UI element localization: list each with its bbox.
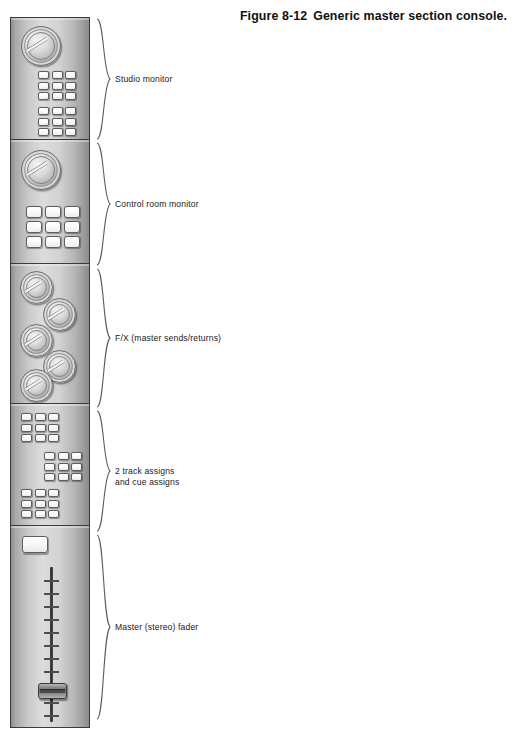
assign-grid-top-left[interactable] [21, 413, 59, 442]
studio-monitor-grid-lower[interactable] [38, 107, 76, 136]
fader-tick [44, 715, 59, 717]
fader-tick [44, 606, 59, 608]
grid-button[interactable] [21, 424, 32, 432]
grid-button[interactable] [44, 463, 55, 471]
grid-button[interactable] [35, 500, 46, 508]
master-fader-cap[interactable] [38, 683, 67, 699]
grid-button[interactable] [35, 424, 46, 432]
grid-button[interactable] [35, 510, 46, 518]
panel-track-and-cue-assigns[interactable] [10, 403, 90, 525]
fx-knob-1[interactable] [20, 271, 53, 304]
label-fx: F/X (master sends/returns) [115, 333, 221, 344]
grid-button[interactable] [35, 434, 46, 442]
brace-master-fader [96, 534, 112, 720]
grid-button[interactable] [38, 92, 49, 100]
panel-studio-monitor[interactable] [10, 17, 90, 139]
grid-button[interactable] [38, 71, 49, 79]
fader-tick [44, 580, 59, 582]
studio-monitor-level-knob[interactable] [21, 26, 61, 66]
brace-track-and-cue-assigns [96, 410, 112, 532]
figure-caption-text: Generic master section console. [313, 9, 507, 23]
grid-button[interactable] [21, 500, 32, 508]
fx-knob-5[interactable] [20, 369, 53, 402]
brace-studio-monitor [96, 18, 112, 140]
grid-button[interactable] [38, 107, 49, 115]
grid-button[interactable] [44, 452, 55, 460]
grid-button[interactable] [65, 128, 76, 136]
grid-button[interactable] [65, 82, 76, 90]
grid-button[interactable] [71, 452, 82, 460]
fx-knob-3[interactable] [20, 324, 53, 357]
grid-button[interactable] [71, 463, 82, 471]
grid-button[interactable] [48, 424, 59, 432]
label-control-room-monitor: Control room monitor [115, 199, 199, 210]
grid-button[interactable] [58, 452, 69, 460]
grid-button[interactable] [48, 489, 59, 497]
grid-button[interactable] [21, 413, 32, 421]
grid-button[interactable] [26, 206, 42, 218]
grid-button[interactable] [38, 82, 49, 90]
grid-button[interactable] [52, 71, 63, 79]
fader-tick [44, 619, 59, 621]
grid-button[interactable] [52, 82, 63, 90]
label-master-fader: Master (stereo) fader [115, 622, 198, 633]
master-mute-button[interactable] [22, 536, 48, 553]
grid-button[interactable] [65, 118, 76, 126]
grid-button[interactable] [48, 500, 59, 508]
grid-button[interactable] [45, 221, 61, 233]
master-section-console [10, 17, 90, 728]
grid-button[interactable] [38, 118, 49, 126]
grid-button[interactable] [52, 107, 63, 115]
grid-button[interactable] [64, 221, 80, 233]
grid-button[interactable] [45, 206, 61, 218]
grid-button[interactable] [64, 236, 80, 248]
control-room-level-knob[interactable] [21, 150, 61, 190]
brace-control-room-monitor [96, 142, 112, 266]
fader-tick [44, 671, 59, 673]
label-studio-monitor: Studio monitor [115, 74, 173, 85]
fader-tick [44, 658, 59, 660]
grid-button[interactable] [21, 489, 32, 497]
grid-button[interactable] [58, 473, 69, 481]
figure-number: Figure 8-12 [240, 9, 307, 23]
grid-button[interactable] [38, 128, 49, 136]
figure-caption: Figure 8-12Generic master section consol… [240, 9, 507, 23]
grid-button[interactable] [65, 107, 76, 115]
grid-button[interactable] [44, 473, 55, 481]
grid-button[interactable] [21, 434, 32, 442]
fader-tick [44, 645, 59, 647]
grid-button[interactable] [35, 413, 46, 421]
fader-tick [44, 593, 59, 595]
grid-button[interactable] [71, 473, 82, 481]
grid-button[interactable] [65, 71, 76, 79]
grid-button[interactable] [35, 489, 46, 497]
grid-button[interactable] [48, 413, 59, 421]
panel-master-stereo-fader[interactable] [10, 525, 90, 728]
grid-button[interactable] [52, 128, 63, 136]
grid-button[interactable] [45, 236, 61, 248]
grid-button[interactable] [58, 463, 69, 471]
grid-button[interactable] [65, 92, 76, 100]
grid-button[interactable] [64, 206, 80, 218]
grid-button[interactable] [26, 221, 42, 233]
grid-button[interactable] [48, 434, 59, 442]
fx-knob-2[interactable] [43, 298, 76, 331]
fader-tick [44, 632, 59, 634]
assign-grid-bottom-left[interactable] [21, 489, 59, 518]
panel-control-room-monitor[interactable] [10, 139, 90, 263]
grid-button[interactable] [52, 118, 63, 126]
grid-button[interactable] [48, 510, 59, 518]
control-room-grid[interactable] [26, 206, 80, 248]
scan-artifact-text [8, 0, 238, 14]
panel-fx-sends-returns[interactable] [10, 263, 90, 403]
brace-fx [96, 268, 112, 408]
grid-button[interactable] [21, 510, 32, 518]
assign-grid-middle-right[interactable] [44, 452, 82, 481]
grid-button[interactable] [52, 92, 63, 100]
grid-button[interactable] [26, 236, 42, 248]
studio-monitor-grid-upper[interactable] [38, 71, 76, 100]
label-track-and-cue-assigns: 2 track assigns and cue assigns [115, 466, 179, 488]
fader-tick [44, 702, 59, 704]
